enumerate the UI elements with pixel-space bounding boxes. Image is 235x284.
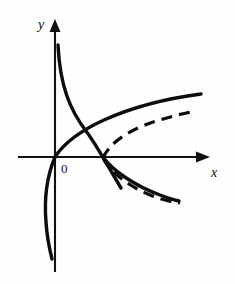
- y-axis-arrowhead: [50, 19, 61, 32]
- x-axis-label: x: [210, 165, 218, 180]
- curve-parabola-dashed-upper: [103, 111, 196, 158]
- curve-parabola-solid-left-branch: [45, 157, 55, 259]
- math-figure: y x 0: [0, 0, 235, 284]
- curve-parabola-solid-upper: [55, 94, 201, 157]
- y-axis-label: y: [36, 17, 45, 32]
- coordinate-plot: y x 0: [0, 0, 235, 284]
- origin-label: 0: [61, 161, 68, 176]
- x-axis-arrowhead: [196, 152, 210, 163]
